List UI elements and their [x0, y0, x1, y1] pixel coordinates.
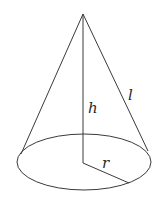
right-slant-edge [83, 14, 148, 151]
height-label: h [88, 99, 98, 117]
cone-diagram: h l r [0, 0, 164, 201]
slant-label: l [128, 86, 133, 104]
base-ellipse [17, 134, 151, 190]
radius-label: r [102, 154, 110, 172]
left-slant-edge [21, 14, 83, 154]
